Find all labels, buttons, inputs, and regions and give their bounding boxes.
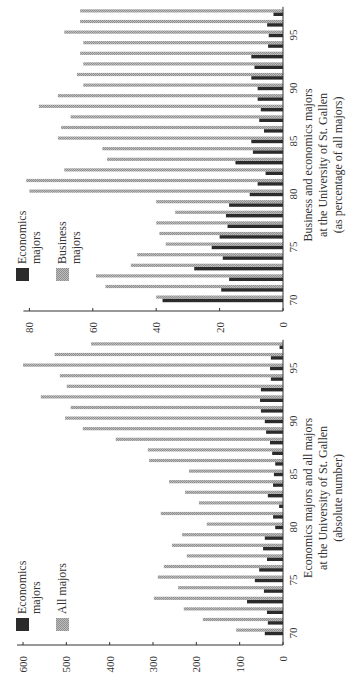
bar-economics-majors: [271, 356, 283, 359]
bar-business-majors: [80, 52, 283, 55]
bar-economics-majors: [270, 367, 283, 370]
bar-economics-majors: [220, 235, 283, 238]
bar-economics-majors: [247, 600, 283, 603]
figure: 020406080707580859095Business and econom…: [0, 0, 362, 700]
category-tick-label: 75: [287, 574, 299, 586]
bar-all-majors: [65, 417, 283, 420]
bar-economics-majors: [251, 140, 283, 143]
bar-economics-majors: [261, 108, 283, 111]
bar-business-majors: [64, 31, 283, 34]
legend-label: Economics: [15, 560, 29, 614]
bar-business-majors: [83, 41, 283, 44]
bar-business-majors: [107, 158, 283, 161]
category-tick-label: 75: [287, 241, 299, 253]
legend-swatch-economics: [16, 268, 29, 281]
bar-business-majors: [159, 232, 283, 235]
bar-economics-majors: [258, 182, 283, 185]
bar-business-majors: [83, 84, 283, 87]
bar-business-majors: [39, 105, 283, 108]
bar-business-majors: [105, 285, 283, 288]
bar-economics-majors: [226, 214, 283, 217]
bar-economics-majors: [261, 409, 283, 412]
bar-economics-majors: [194, 267, 283, 270]
axis-title-line: (as percentage of all majors): [331, 97, 345, 234]
chart-figure: 020406080707580859095Business and econom…: [0, 0, 362, 700]
bar-economics-majors: [267, 611, 283, 614]
bar-economics-majors: [270, 441, 283, 444]
bar-all-majors: [60, 374, 283, 377]
bar-economics-majors: [269, 34, 283, 37]
bar-business-majors: [137, 253, 283, 256]
chart-absolute-panel: 0100200300400500600707580859095Economics…: [15, 340, 345, 673]
legend-label: majors: [29, 581, 43, 614]
bar-all-majors: [71, 406, 283, 409]
bar-business-majors: [175, 211, 283, 214]
bar-all-majors: [164, 565, 283, 568]
bar-economics-majors: [228, 225, 283, 228]
bar-business-majors: [80, 9, 283, 12]
bar-economics-majors: [259, 568, 283, 571]
bar-business-majors: [166, 243, 283, 246]
category-tick-label: 85: [287, 468, 299, 480]
bar-business-majors: [80, 20, 283, 23]
category-tick-label: 95: [287, 362, 299, 374]
bar-business-majors: [64, 168, 283, 171]
bar-economics-majors: [254, 66, 283, 69]
category-tick-label: 90: [287, 82, 299, 94]
legend-label: majors: [29, 231, 43, 264]
bar-all-majors: [203, 618, 283, 621]
axis-title-line: Business and economics majors: [301, 88, 315, 241]
bar-all-majors: [169, 480, 283, 483]
bar-economics-majors: [273, 515, 283, 518]
value-tick-label: 300: [147, 656, 159, 673]
bar-economics-majors: [271, 377, 283, 380]
bar-economics-majors: [265, 420, 283, 423]
bar-economics-majors: [273, 13, 283, 16]
legend-label: Economics: [15, 210, 29, 264]
bar-economics-majors: [265, 632, 283, 635]
axis-title-line: at the University of St. Gallen: [316, 93, 330, 237]
bar-economics-majors: [235, 161, 283, 164]
value-tick-label: 400: [104, 656, 116, 673]
bar-business-majors: [131, 264, 283, 267]
bar-economics-majors: [279, 505, 283, 508]
legend-label: All majors: [55, 563, 69, 614]
bar-economics-majors: [212, 246, 283, 249]
value-tick-label: 600: [17, 656, 29, 673]
bar-economics-majors: [267, 558, 283, 561]
bar-economics-majors: [275, 462, 283, 465]
bar-all-majors: [161, 512, 283, 515]
bar-economics-majors: [163, 299, 283, 302]
category-tick-label: 70: [287, 627, 299, 639]
bar-all-majors: [207, 523, 283, 526]
bar-economics-majors: [266, 172, 283, 175]
bar-all-majors: [199, 501, 283, 504]
bar-economics-majors: [261, 388, 283, 391]
bar-all-majors: [189, 470, 283, 473]
category-tick-label: 70: [287, 294, 299, 306]
bar-all-majors: [148, 448, 283, 451]
bar-economics-majors: [264, 589, 283, 592]
bar-business-majors: [58, 137, 283, 140]
legend-swatch-secondary: [56, 268, 69, 281]
bar-business-majors: [77, 73, 283, 76]
bar-all-majors: [178, 586, 283, 589]
value-tick-label: 0: [277, 656, 289, 662]
bar-all-majors: [184, 607, 283, 610]
bar-economics-majors: [229, 203, 283, 206]
bar-all-majors: [182, 533, 283, 536]
bar-business-majors: [96, 274, 283, 277]
bar-all-majors: [185, 491, 283, 494]
value-tick-label: 200: [190, 656, 202, 673]
legend-label: majors: [69, 231, 83, 264]
bar-all-majors: [91, 342, 283, 345]
bar-all-majors: [158, 576, 283, 579]
bar-economics-majors: [273, 483, 283, 486]
bar-economics-majors: [223, 256, 283, 259]
bar-business-majors: [29, 190, 283, 193]
bar-economics-majors: [280, 346, 283, 349]
bar-all-majors: [41, 395, 283, 398]
chart-percentage-panel: 020406080707580859095Business and econom…: [15, 7, 345, 333]
bar-economics-majors: [267, 23, 283, 26]
bar-economics-majors: [275, 526, 283, 529]
